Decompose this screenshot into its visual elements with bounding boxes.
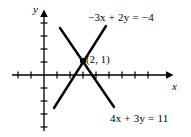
equation-label-bottom: 4x + 3y = 11 bbox=[110, 112, 168, 124]
y-axis-label: y bbox=[33, 3, 38, 15]
intersection-point-label: (2, 1) bbox=[86, 54, 110, 65]
line-minus3x-plus-2y-equals-minus4 bbox=[54, 26, 106, 108]
y-axis-arrowhead bbox=[40, 10, 48, 18]
x-axis-arrowhead bbox=[166, 71, 174, 79]
line-4x-plus-3y-equals-11 bbox=[60, 28, 114, 107]
equation-label-top: −3x + 2y = −4 bbox=[88, 11, 154, 23]
graph-figure: y x −3x + 2y = −4 4x + 3y = 11 (2, 1) bbox=[0, 0, 191, 137]
x-axis-label: x bbox=[172, 80, 177, 92]
